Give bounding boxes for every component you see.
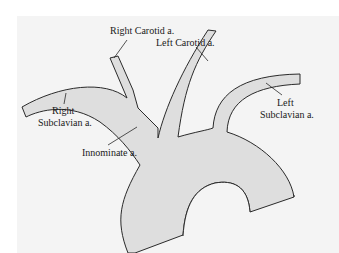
- label-left-subclavian-2: Subclavian a.: [260, 109, 314, 120]
- label-innominate: Innominate a.: [82, 147, 137, 158]
- label-right-subclavian-1: Right: [52, 105, 74, 116]
- label-right-carotid: Right Carotid a.: [110, 25, 174, 36]
- label-left-subclavian-1: Left: [277, 97, 294, 108]
- label-left-carotid: Left Carotid a.: [156, 37, 215, 48]
- aortic-arch-diagram: Right Carotid a. Left Carotid a. Right S…: [0, 0, 339, 253]
- label-right-subclavian-2: Subclavian a.: [38, 117, 92, 128]
